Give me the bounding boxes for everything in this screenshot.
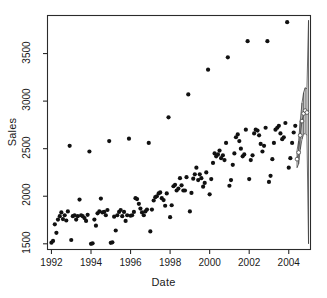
data-point	[84, 219, 88, 223]
data-point	[288, 156, 292, 160]
data-point	[283, 121, 287, 125]
data-point	[208, 192, 212, 196]
data-point	[170, 203, 174, 207]
data-point	[252, 131, 256, 135]
data-point	[229, 178, 233, 182]
data-point	[161, 198, 165, 202]
data-point	[277, 124, 281, 128]
data-point	[247, 177, 251, 181]
data-point	[267, 180, 271, 184]
data-point	[204, 170, 208, 174]
data-point	[94, 224, 98, 228]
data-point	[127, 137, 131, 141]
data-point	[265, 39, 269, 43]
data-point	[188, 209, 192, 213]
data-point	[120, 214, 124, 218]
data-point	[191, 177, 195, 181]
data-point	[260, 149, 264, 153]
data-point	[285, 20, 289, 24]
data-point	[246, 39, 250, 43]
data-point	[216, 152, 220, 156]
data-point	[165, 191, 169, 195]
data-point	[199, 176, 203, 180]
data-point	[255, 129, 259, 133]
data-point	[87, 149, 91, 153]
forecast-point	[295, 157, 299, 161]
sales-scatter-chart: Sales Date 15002000250030003500 19921994…	[0, 0, 327, 298]
data-point	[99, 197, 103, 201]
data-point	[64, 218, 68, 222]
data-point	[107, 139, 111, 143]
data-point	[135, 197, 139, 201]
data-point	[227, 184, 231, 188]
data-point	[150, 207, 154, 211]
data-point	[224, 141, 228, 145]
data-point	[66, 209, 70, 213]
data-point	[292, 130, 296, 134]
data-point	[77, 197, 81, 201]
data-point	[114, 228, 118, 232]
data-point	[198, 172, 202, 176]
data-point	[264, 126, 268, 130]
data-point	[209, 177, 213, 181]
data-point	[249, 158, 253, 162]
data-point	[148, 229, 152, 233]
data-point	[158, 190, 162, 194]
data-point	[68, 144, 72, 148]
data-point	[293, 124, 297, 128]
data-point	[54, 231, 58, 235]
data-point	[244, 128, 248, 132]
data-point	[231, 163, 235, 167]
data-point	[69, 238, 73, 242]
data-point	[257, 133, 261, 137]
data-point	[163, 204, 167, 208]
data-point	[183, 188, 187, 192]
data-points	[49, 20, 297, 246]
forecast-point	[297, 151, 301, 155]
data-point	[232, 151, 236, 155]
data-point	[176, 187, 180, 191]
data-point	[262, 144, 266, 148]
data-point	[132, 210, 136, 214]
data-point	[86, 213, 90, 217]
data-point	[168, 215, 172, 219]
data-point	[270, 157, 274, 161]
data-point	[145, 207, 149, 211]
data-point	[242, 152, 246, 156]
data-point	[194, 166, 198, 170]
data-point	[287, 166, 291, 170]
data-point	[122, 210, 126, 214]
data-point	[217, 148, 221, 152]
data-point	[189, 191, 193, 195]
data-point	[147, 141, 151, 145]
data-point	[221, 153, 225, 157]
data-point	[138, 207, 142, 211]
data-point	[222, 158, 226, 162]
data-point	[203, 181, 207, 185]
data-point	[179, 183, 183, 187]
data-point	[278, 131, 282, 135]
data-point	[110, 240, 114, 244]
data-point	[92, 217, 96, 221]
forecast-point	[298, 133, 302, 137]
data-point	[239, 147, 243, 151]
data-point	[137, 202, 141, 206]
data-point	[272, 141, 276, 145]
data-point	[124, 219, 128, 223]
data-point	[211, 161, 215, 165]
data-point	[90, 241, 94, 245]
plot-area	[0, 0, 327, 298]
forecast-point	[300, 119, 304, 123]
data-point	[178, 176, 182, 180]
data-point	[184, 175, 188, 179]
forecast-fan	[295, 20, 309, 244]
data-point	[63, 213, 67, 217]
data-point	[105, 208, 109, 212]
data-point	[226, 55, 230, 59]
data-point	[166, 115, 170, 119]
data-point	[268, 174, 272, 178]
data-point	[58, 214, 62, 218]
data-point	[193, 172, 197, 176]
data-point	[206, 68, 210, 72]
data-point	[53, 222, 57, 226]
